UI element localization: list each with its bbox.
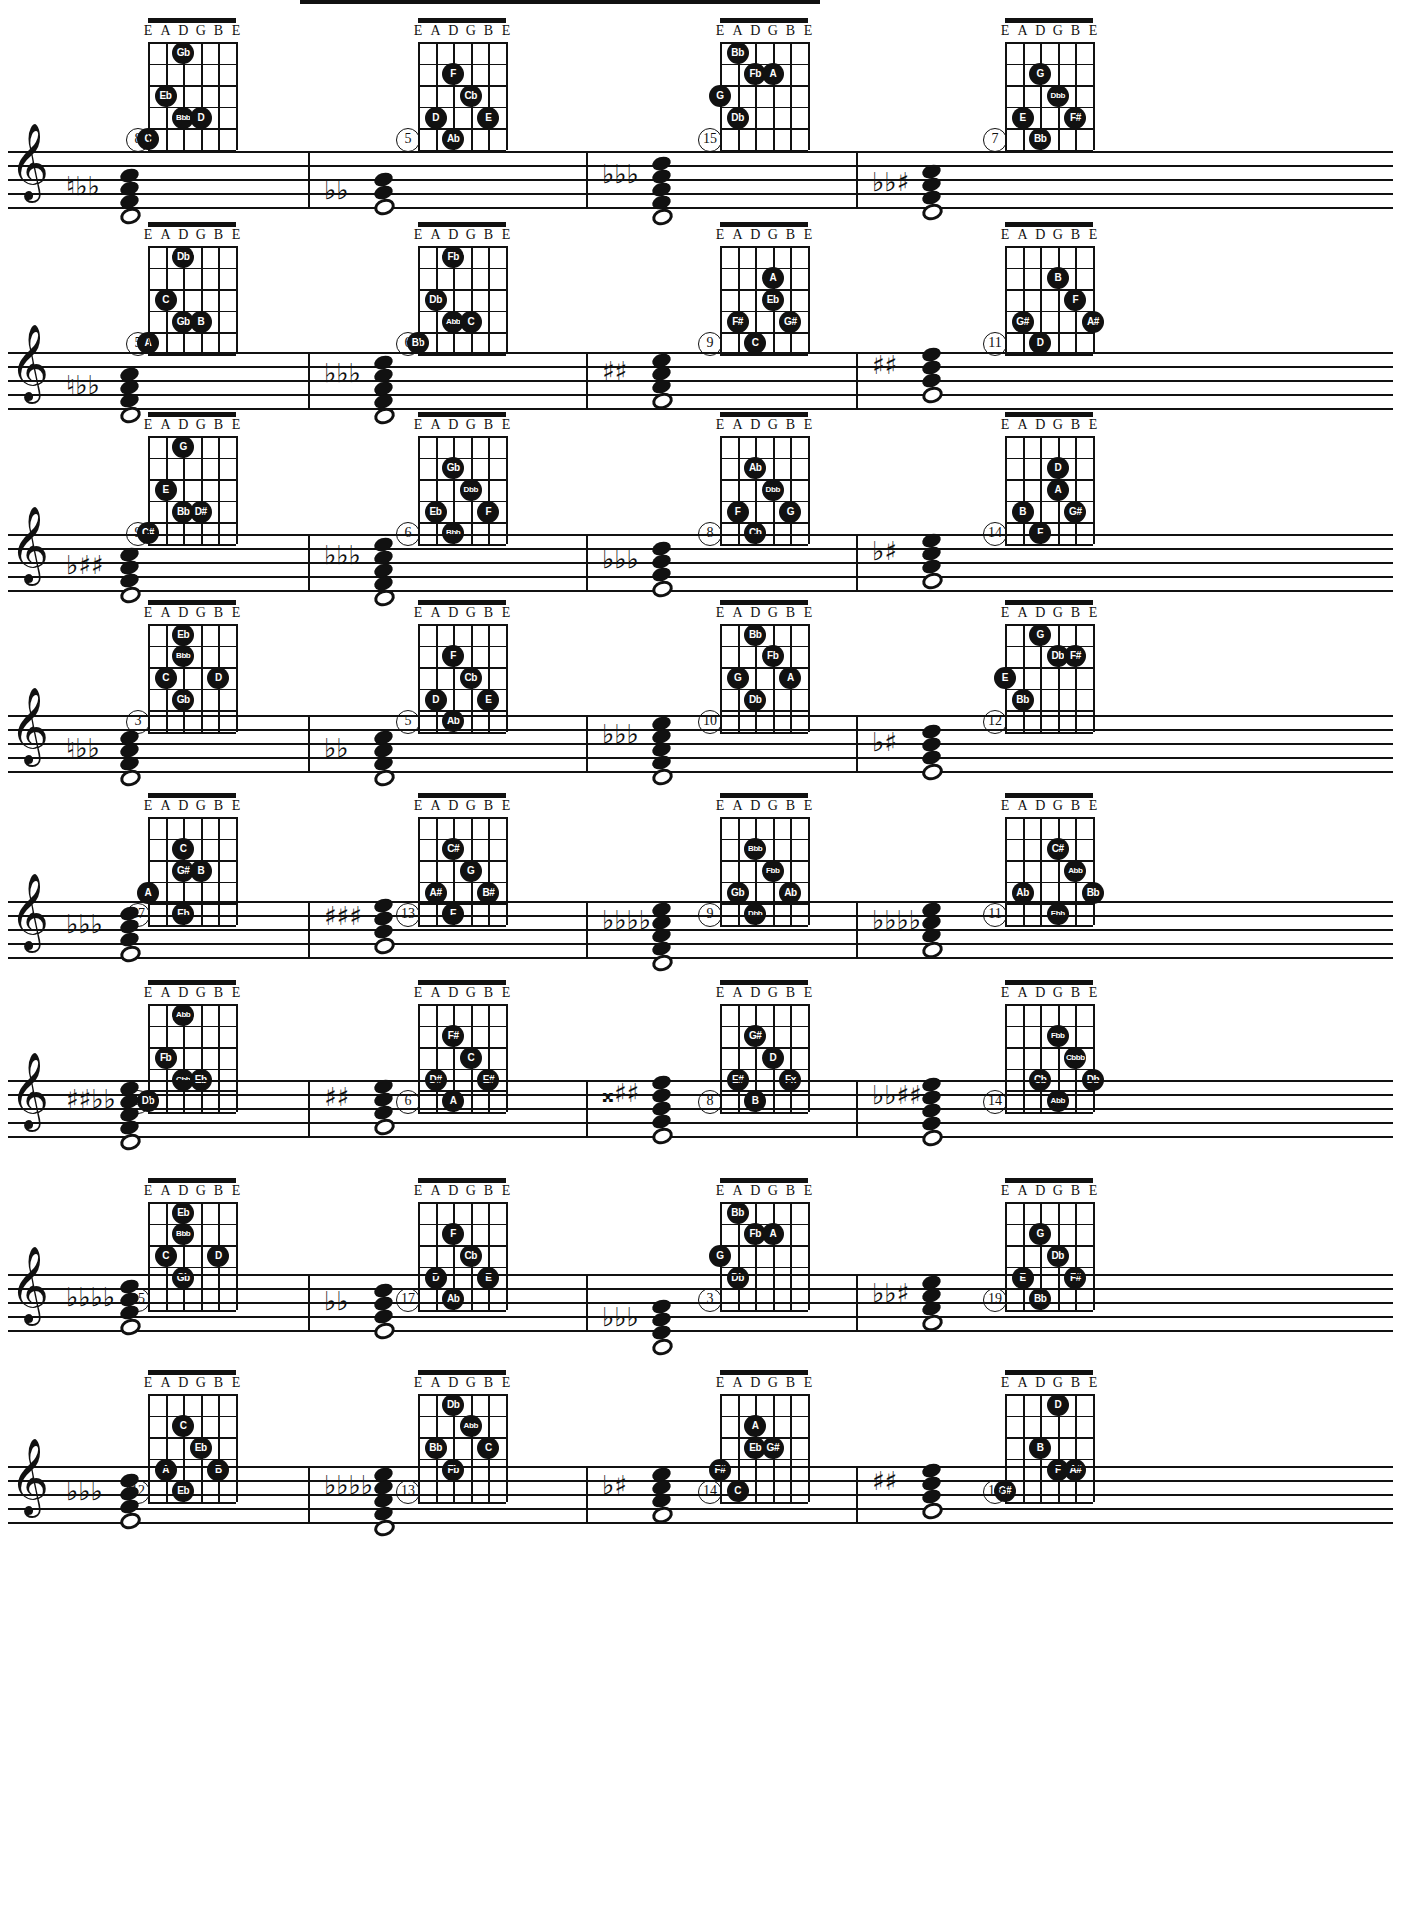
fingering-dot[interactable]: A	[762, 63, 784, 85]
fingering-dot[interactable]: E	[477, 107, 499, 129]
fingering-dot[interactable]: Db	[442, 1394, 464, 1416]
fingering-dot[interactable]: F	[442, 63, 464, 85]
fingering-dot[interactable]: Bbb	[172, 645, 194, 667]
fingering-dot[interactable]: D	[190, 107, 212, 129]
fingering-dot[interactable]: B	[1029, 1437, 1051, 1459]
fingering-dot[interactable]: Eb	[172, 1202, 194, 1224]
fingering-dot[interactable]: C	[460, 311, 482, 333]
fingering-dot[interactable]: G	[709, 1245, 731, 1267]
fingering-dot[interactable]: Cb	[460, 85, 482, 107]
fingering-dot[interactable]: Ab	[744, 457, 766, 479]
fingering-dot[interactable]: F#	[1064, 107, 1086, 129]
fingering-dot[interactable]: D	[207, 1245, 229, 1267]
fingering-dot[interactable]: D#	[190, 501, 212, 523]
fingering-dot[interactable]: G	[779, 501, 801, 523]
fingering-dot[interactable]: E	[477, 689, 499, 711]
fingering-dot[interactable]: G	[727, 667, 749, 689]
fingering-dot[interactable]: Fb	[442, 246, 464, 268]
fingering-dot[interactable]: G#	[1064, 501, 1086, 523]
fingering-dot[interactable]: Abb	[460, 1415, 482, 1437]
fingering-dot[interactable]: G#	[744, 1025, 766, 1047]
fingering-dot[interactable]: Abb	[172, 1004, 194, 1026]
fingering-dot[interactable]: B	[1012, 501, 1034, 523]
fingering-dot[interactable]: Eb	[155, 85, 177, 107]
fingering-dot[interactable]: Db	[744, 689, 766, 711]
fingering-dot[interactable]: Cb	[460, 667, 482, 689]
fingering-dot[interactable]: B	[1047, 267, 1069, 289]
fingering-dot[interactable]: E	[994, 667, 1016, 689]
fingering-dot[interactable]: A	[762, 267, 784, 289]
fingering-dot[interactable]: C#	[442, 838, 464, 860]
fingering-dot[interactable]: G	[172, 436, 194, 458]
fingering-dot[interactable]: D	[1029, 332, 1051, 354]
fingering-dot[interactable]: A	[762, 1223, 784, 1245]
fingering-dot[interactable]: Bbb	[172, 1223, 194, 1245]
fingering-dot[interactable]: B	[190, 311, 212, 333]
fingering-dot[interactable]: Bb	[425, 1437, 447, 1459]
fingering-dot[interactable]: Fbb	[1047, 1025, 1069, 1047]
fingering-dot[interactable]: G#	[762, 1437, 784, 1459]
fingering-dot[interactable]: Dbb	[1047, 85, 1069, 107]
fingering-dot[interactable]: C	[172, 1415, 194, 1437]
fingering-dot[interactable]: G	[1029, 63, 1051, 85]
fingering-dot[interactable]: Ab	[442, 128, 464, 150]
fingering-dot[interactable]: A	[1047, 479, 1069, 501]
fingering-dot[interactable]: A	[779, 667, 801, 689]
fingering-dot[interactable]: Eb	[172, 624, 194, 646]
fingering-dot[interactable]: Cb	[460, 1245, 482, 1267]
fingering-dot[interactable]: Eb	[425, 501, 447, 523]
fingering-dot[interactable]: F	[442, 645, 464, 667]
fingering-dot[interactable]: A	[744, 1415, 766, 1437]
fingering-dot[interactable]: C	[172, 838, 194, 860]
fingering-dot[interactable]: G#	[1012, 311, 1034, 333]
fingering-dot[interactable]: Bb	[1012, 689, 1034, 711]
fingering-dot[interactable]: A#	[1082, 311, 1104, 333]
fingering-dot[interactable]: C	[155, 1245, 177, 1267]
fingering-dot[interactable]: Fb	[762, 645, 784, 667]
fingering-dot[interactable]: Gb	[172, 689, 194, 711]
fingering-dot[interactable]: Bb	[744, 624, 766, 646]
fingering-dot[interactable]: Eb	[762, 289, 784, 311]
fingering-dot[interactable]: Fbb	[762, 860, 784, 882]
fingering-dot[interactable]: C	[460, 1047, 482, 1069]
fingering-dot[interactable]: D	[762, 1047, 784, 1069]
fingering-dot[interactable]: D	[1047, 457, 1069, 479]
fingering-dot[interactable]: F	[727, 501, 749, 523]
fingering-dot[interactable]: F#	[1064, 645, 1086, 667]
fingering-dot[interactable]: D	[425, 107, 447, 129]
fingering-dot[interactable]: F#	[727, 311, 749, 333]
fingering-dot[interactable]: E	[1012, 107, 1034, 129]
fingering-dot[interactable]: Db	[425, 289, 447, 311]
fingering-dot[interactable]: D	[1047, 1394, 1069, 1416]
fingering-dot[interactable]: Dbb	[460, 479, 482, 501]
fingering-dot[interactable]: Gb	[172, 42, 194, 64]
fingering-dot[interactable]: G	[709, 85, 731, 107]
fingering-dot[interactable]: Abb	[1064, 860, 1086, 882]
fingering-dot[interactable]: Bbb	[744, 838, 766, 860]
fingering-dot[interactable]: G	[1029, 624, 1051, 646]
fingering-dot[interactable]: Bb	[1029, 128, 1051, 150]
fingering-dot[interactable]: G#	[779, 311, 801, 333]
fingering-dot[interactable]: F	[442, 1223, 464, 1245]
fingering-dot[interactable]: C	[155, 667, 177, 689]
fingering-dot[interactable]: Db	[1047, 1245, 1069, 1267]
fingering-dot[interactable]: Gb	[442, 457, 464, 479]
fingering-dot[interactable]: F	[1064, 289, 1086, 311]
fingering-dot[interactable]: Bb	[727, 42, 749, 64]
fingering-dot[interactable]: Eb	[190, 1437, 212, 1459]
fingering-dot[interactable]: Cbbb	[1064, 1047, 1086, 1069]
fingering-dot[interactable]: E	[155, 479, 177, 501]
fingering-dot[interactable]: G	[1029, 1223, 1051, 1245]
fingering-dot[interactable]: Db	[172, 246, 194, 268]
fingering-dot[interactable]: Dbb	[762, 479, 784, 501]
fingering-dot[interactable]: Db	[727, 107, 749, 129]
fingering-dot[interactable]: G	[460, 860, 482, 882]
fingering-dot[interactable]: C	[477, 1437, 499, 1459]
fingering-dot[interactable]: C#	[1047, 838, 1069, 860]
fingering-dot[interactable]: F#	[442, 1025, 464, 1047]
fingering-dot[interactable]: C	[744, 332, 766, 354]
fingering-dot[interactable]: C	[155, 289, 177, 311]
fingering-dot[interactable]: B	[190, 860, 212, 882]
fingering-dot[interactable]: F	[477, 501, 499, 523]
fingering-dot[interactable]: Bb	[727, 1202, 749, 1224]
